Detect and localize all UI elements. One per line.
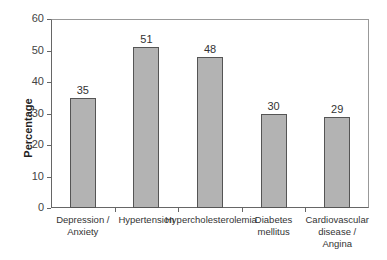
x-tick-mark: [305, 208, 306, 212]
y-tick-mark: [47, 114, 51, 115]
data-label: 35: [68, 84, 98, 96]
y-tick-mark: [47, 82, 51, 83]
bar: [261, 114, 287, 209]
y-tick-mark: [47, 145, 51, 146]
data-label: 29: [322, 103, 352, 115]
bar: [324, 117, 350, 208]
x-tick-mark: [115, 208, 116, 212]
y-tick-mark: [47, 208, 51, 209]
data-label: 30: [259, 100, 289, 112]
y-tick-label: 30: [24, 107, 44, 119]
bar: [70, 98, 96, 208]
y-tick-mark: [47, 177, 51, 178]
y-tick-label: 60: [24, 12, 44, 24]
y-tick-mark: [47, 51, 51, 52]
x-tick-mark: [178, 208, 179, 212]
y-tick-mark: [47, 19, 51, 20]
x-category-label: Cardiovasculardisease /Angina: [292, 214, 382, 250]
y-tick-label: 50: [24, 44, 44, 56]
y-tick-label: 40: [24, 75, 44, 87]
y-tick-label: 10: [24, 170, 44, 182]
bar: [197, 57, 223, 208]
data-label: 51: [131, 33, 161, 45]
y-tick-label: 0: [24, 201, 44, 213]
x-tick-mark: [242, 208, 243, 212]
data-label: 48: [195, 43, 225, 55]
y-tick-label: 20: [24, 138, 44, 150]
bar: [133, 47, 159, 208]
